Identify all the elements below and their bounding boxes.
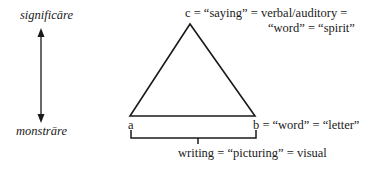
vertex-b-label: b = “word” = “letter”: [253, 118, 359, 132]
apex-label-line1: c = “saying” = verbal/auditory =: [185, 6, 347, 20]
double-arrow-icon: [38, 28, 45, 123]
triangle-shape: [130, 24, 255, 116]
significare-label: significāre: [20, 8, 73, 22]
monstrare-label: monstrāre: [16, 124, 67, 138]
base-caption: writing = “picturing” = visual: [178, 146, 327, 160]
vertex-a-label: a: [128, 118, 134, 132]
base-bracket: [131, 130, 256, 144]
apex-label-line2: “word” = “spirit”: [268, 21, 355, 35]
